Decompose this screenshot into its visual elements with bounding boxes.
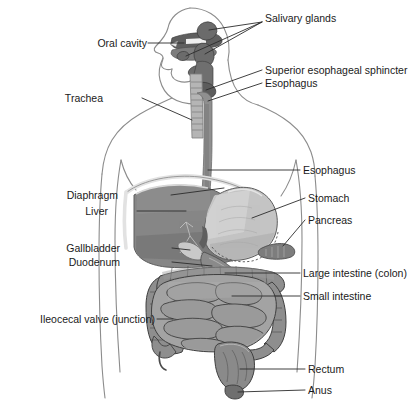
anatomy-illustration [0, 0, 415, 402]
digestive-system-figure: Salivary glands Superior esophageal sphi… [0, 0, 415, 402]
label-rectum: Rectum [308, 363, 344, 375]
label-large-intestine: Large intestine (colon) [303, 267, 407, 279]
label-gallbladder: Gallbladder [0, 242, 120, 254]
label-trachea: Trachea [0, 92, 103, 104]
small-intestine-structure [152, 275, 277, 355]
label-oral-cavity: Oral cavity [0, 37, 147, 49]
label-liver: Liver [0, 205, 108, 217]
label-esophagus-upper: Esophagus [265, 77, 318, 89]
label-esophagus-lower: Esophagus [303, 164, 356, 176]
label-salivary-glands: Salivary glands [265, 12, 336, 24]
rectum-structure [214, 342, 254, 391]
label-pancreas: Pancreas [308, 214, 352, 226]
trachea-structure [190, 74, 203, 138]
label-duodenum: Duodenum [0, 256, 120, 268]
label-small-intestine: Small intestine [303, 290, 371, 302]
label-stomach: Stomach [308, 192, 349, 204]
label-superior-esophageal-sphincter: Superior esophageal sphincter [265, 64, 407, 76]
label-anus: Anus [308, 384, 332, 396]
label-diaphragm: Diaphragm [0, 189, 118, 201]
label-ileocecal-valve: Ileocecal valve (junction) [0, 313, 155, 325]
